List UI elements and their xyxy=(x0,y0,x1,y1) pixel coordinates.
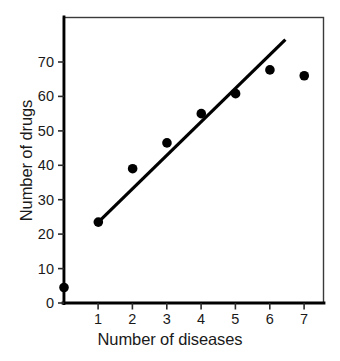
plot-frame xyxy=(64,18,324,304)
data-point-group xyxy=(59,65,309,292)
y-tick-label: 70 xyxy=(38,54,54,70)
data-point xyxy=(196,109,206,119)
plot-canvas: 0 10 20 30 40 50 60 70 1 2 3 4 5 6 xyxy=(0,0,340,361)
y-tick-label: 30 xyxy=(38,192,54,208)
data-point xyxy=(231,89,241,99)
trend-line xyxy=(98,40,285,222)
x-tick-label: 6 xyxy=(266,311,274,327)
data-point xyxy=(128,164,138,174)
y-tick-label: 60 xyxy=(38,88,54,104)
y-tick-label: 50 xyxy=(38,123,54,139)
x-tick-label: 2 xyxy=(128,311,136,327)
y-tick-label: 40 xyxy=(38,157,54,173)
data-point xyxy=(59,283,69,293)
x-tick-label: 5 xyxy=(231,311,239,327)
data-point xyxy=(299,71,309,81)
x-axis-tick-labels: 1 2 3 4 5 6 7 xyxy=(94,311,308,327)
x-tick-label: 3 xyxy=(163,311,171,327)
y-tick-label: 0 xyxy=(46,295,54,311)
x-tick-label: 4 xyxy=(197,311,205,327)
y-tick-label: 20 xyxy=(38,226,54,242)
y-tick-label: 10 xyxy=(38,261,54,277)
y-axis-tick-labels: 0 10 20 30 40 50 60 70 xyxy=(38,54,54,311)
data-point xyxy=(265,65,275,75)
x-axis-title: Number of diseases xyxy=(0,330,340,349)
scatter-plot-figure: 0 10 20 30 40 50 60 70 1 2 3 4 5 6 xyxy=(0,0,340,361)
x-tick-label: 1 xyxy=(94,311,102,327)
x-tick-label: 7 xyxy=(300,311,308,327)
data-point xyxy=(162,138,172,148)
data-point xyxy=(94,217,104,227)
